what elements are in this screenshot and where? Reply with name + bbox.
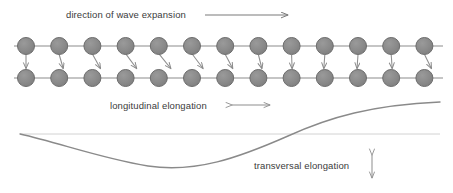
wave-curve xyxy=(20,102,440,168)
transversal-elongation-label: transversal elongation xyxy=(254,161,349,171)
direction-of-wave-expansion-label: direction of wave expansion xyxy=(66,10,186,20)
longitudinal-elongation-label: longitudinal elongation xyxy=(110,101,207,111)
diagram-canvas xyxy=(0,0,453,193)
displacement-arrows xyxy=(26,54,431,69)
wave-diagram-figure: direction of wave expansion longitudinal… xyxy=(0,0,453,193)
